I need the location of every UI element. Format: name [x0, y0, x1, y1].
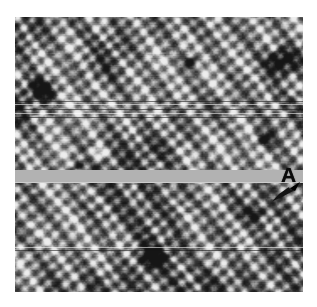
stm-image-canvas: [15, 17, 303, 292]
figure-root: A: [0, 0, 317, 307]
stm-micrograph: A: [15, 17, 303, 292]
